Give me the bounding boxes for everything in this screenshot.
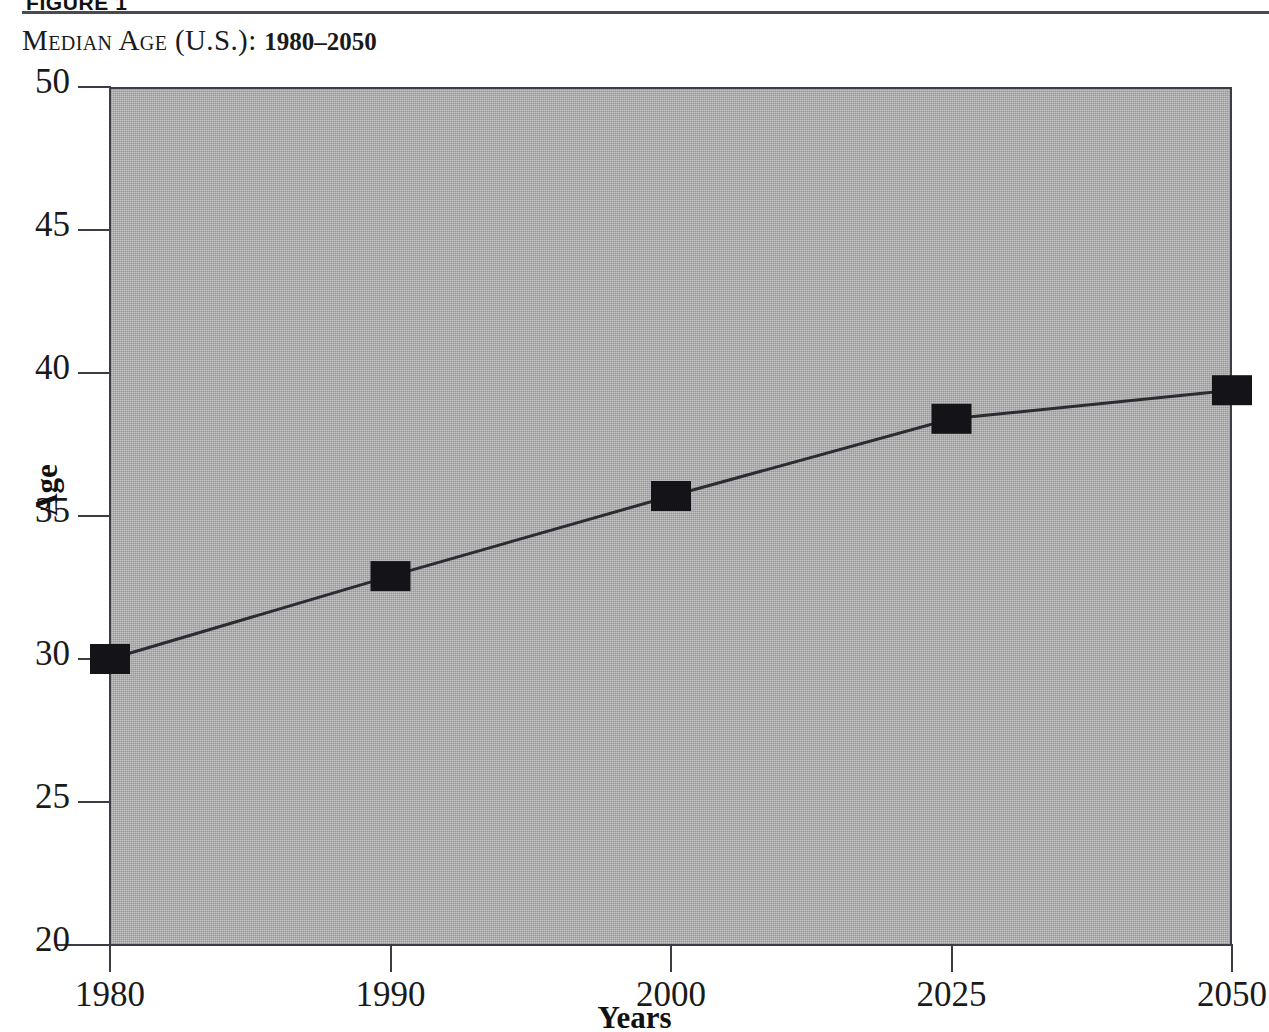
y-tick-mark <box>78 86 110 88</box>
y-tick-label: 40 <box>35 348 70 388</box>
y-tick-mark <box>78 801 110 803</box>
plot-area <box>110 87 1232 945</box>
y-axis-title: Age <box>29 430 65 550</box>
chart-figure: 20253035404550 19801990200020252050 Age … <box>0 0 1269 1032</box>
y-tick-mark <box>78 372 110 374</box>
y-tick-mark <box>78 658 110 660</box>
x-tick-mark <box>670 945 672 972</box>
x-tick-mark <box>1231 945 1233 972</box>
x-tick-mark <box>951 945 953 972</box>
x-axis-title: Years <box>0 1000 1269 1032</box>
x-tick-mark <box>390 945 392 972</box>
x-tick-mark <box>109 945 111 972</box>
y-tick-mark <box>78 944 110 946</box>
y-tick-label: 45 <box>35 205 70 245</box>
y-tick-label: 30 <box>35 634 70 674</box>
x-axis-line <box>56 944 1233 946</box>
y-tick-mark <box>78 229 110 231</box>
y-tick-label: 50 <box>35 62 70 102</box>
y-tick-label: 20 <box>35 920 70 960</box>
y-tick-mark <box>78 515 110 517</box>
y-tick-label: 25 <box>35 777 70 817</box>
